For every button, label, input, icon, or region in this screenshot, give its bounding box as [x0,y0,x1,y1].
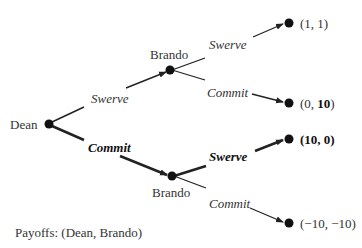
payoff-commit-swerve: (10, 0) [300,133,335,146]
payoff-bold-part: 10 [317,96,330,111]
node-brando-top [166,66,175,75]
payoff-swerve-swerve: (1, 1) [300,17,328,30]
game-tree-lines [0,0,362,248]
payoff-swerve-commit: (0, 10) [300,97,335,110]
payoffs-legend: Payoffs: (Dean, Brando) [15,226,142,239]
edge-label-top-commit: Commit [207,86,248,99]
brando-bottom-label: Brando [152,186,190,199]
edge-label-bottom-commit: Commit [209,197,250,210]
edge-label-top-swerve: Swerve [209,38,247,51]
terminal-2 [285,99,294,108]
payoff-part: (0, [300,96,317,111]
terminal-4 [285,219,294,228]
dean-label: Dean [10,118,37,131]
terminal-3 [285,135,294,144]
node-dean [45,120,54,129]
node-brando-bottom [168,172,177,181]
payoff-part: ) [330,96,334,111]
brando-top-label: Brando [150,48,188,61]
edge-label-bottom-swerve: Swerve [209,150,247,163]
edge-label-dean-swerve: Swerve [91,92,129,105]
edge-label-dean-commit: Commit [88,141,131,154]
terminal-1 [285,19,294,28]
payoff-commit-commit: (−10, −10) [300,217,356,230]
